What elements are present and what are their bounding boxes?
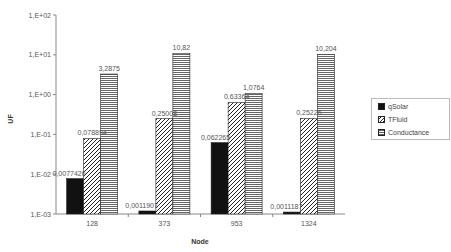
y-tick-label: 1,E-01 [30,131,51,138]
x-tick-label: 953 [231,220,243,227]
bar-conductance [317,54,334,214]
data-label: 10,82 [173,44,191,51]
data-label: 0,25008 [152,110,177,117]
y-tick-label: 1,E-03 [30,211,51,218]
horizontal-lines-swatch-icon [378,129,385,136]
bar-tfluid [156,119,173,214]
bar-qsolar [67,179,84,214]
bar-conductance [173,53,190,214]
x-tick-label: 1324 [301,220,317,227]
data-label: 0,0011187 [270,203,302,210]
data-label: 0,078894 [78,129,107,136]
y-axis-title: UF [7,114,14,124]
data-label: 0,63364 [224,93,249,100]
y-tick-label: 1,E+00 [29,91,51,98]
bar-qsolar [139,211,156,214]
x-axis-title: Node [191,238,209,245]
x-tick-label: 128 [86,220,98,227]
legend-item-tfluid: TFluid [372,113,449,125]
data-label: 0,0011907 [125,202,158,209]
bar-tfluid [228,102,245,214]
bar-qsolar [283,212,300,214]
legend-label: TFluid [388,116,407,123]
y-tick-label: 1,E-02 [30,171,51,178]
solid-swatch-icon [378,103,385,110]
bar-qsolar [211,143,228,214]
y-tick-label: 1,E+02 [29,12,51,19]
diagonal-hatch-swatch-icon [378,116,385,123]
legend-item-qsolar: qSolar [372,100,449,112]
data-label: 1,0764 [243,84,265,91]
data-label: 3,2875 [98,65,120,72]
data-label: 0,0077426 [53,170,86,177]
legend: qSolar TFluid Conductance [371,98,450,140]
data-label: 10,204 [315,45,337,52]
bar-conductance [101,74,118,214]
x-tick-label: 373 [159,220,171,227]
bar-tfluid [84,138,101,214]
data-label: 0,25226 [296,109,321,116]
bar-tfluid [300,118,317,214]
bar-conductance [245,93,262,214]
legend-label: qSolar [388,103,408,110]
data-label: 0,062265 [201,134,230,141]
legend-item-conductance: Conductance [372,126,449,138]
legend-label: Conductance [388,129,429,136]
y-tick-label: 1,E+01 [29,51,51,58]
